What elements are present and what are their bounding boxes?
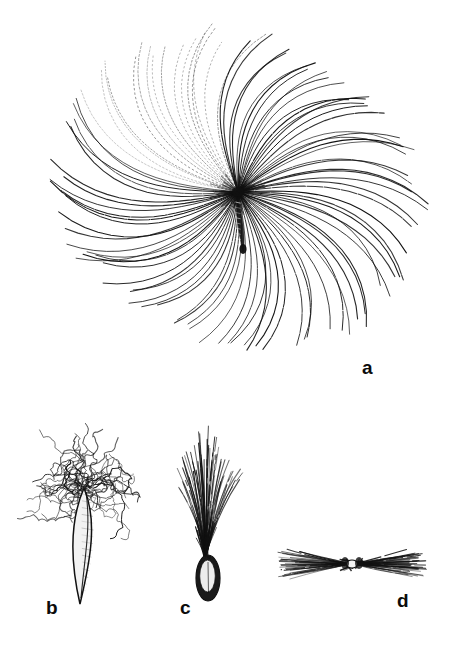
panel-label-c: c	[180, 598, 191, 617]
panel-label-b: b	[46, 598, 58, 617]
panel-label-d: d	[397, 591, 409, 610]
panel-label-a: a	[362, 358, 373, 377]
figure-plate: a b c d	[0, 0, 462, 650]
illustration-canvas	[0, 0, 462, 650]
panel-c-achene-body	[196, 555, 220, 601]
plate-background	[0, 0, 462, 650]
